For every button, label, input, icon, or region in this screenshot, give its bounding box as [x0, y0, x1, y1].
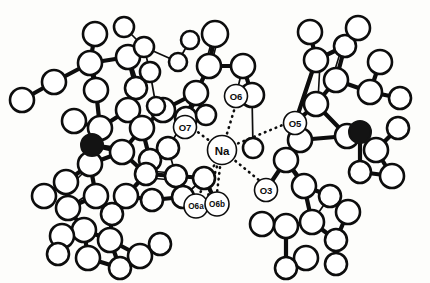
- atom-label-text: O3: [260, 185, 273, 196]
- atom-circle: [54, 170, 78, 194]
- atom-circle: [184, 81, 208, 105]
- atom-circle: [364, 138, 388, 162]
- atom-circle: [304, 92, 328, 116]
- atom-circle: [387, 117, 409, 139]
- atom-label-o6b: O6b: [205, 192, 229, 216]
- atom-circle: [165, 165, 187, 187]
- atom-circle: [275, 257, 297, 279]
- atom-circle: [110, 140, 134, 164]
- atom-circle: [197, 54, 221, 78]
- atom-circle: [298, 20, 322, 44]
- atom-circle: [196, 105, 216, 125]
- atom-label-text: O6b: [209, 200, 225, 209]
- atom-circle: [358, 80, 382, 104]
- atom-circle: [125, 77, 147, 99]
- atom-circle: [274, 214, 298, 238]
- atom-circle: [250, 212, 274, 236]
- atom-label-o6: O6: [225, 85, 248, 108]
- atom-circle: [181, 31, 199, 49]
- atom-circle: [10, 88, 34, 112]
- atom-circle: [130, 116, 154, 140]
- atom-circle: [325, 253, 347, 275]
- atom-label-text: Na: [215, 145, 230, 157]
- atom-circle: [42, 70, 66, 94]
- atom-circle: [324, 68, 348, 92]
- atom-circle: [76, 246, 100, 270]
- atom-circle: [147, 97, 165, 115]
- atom-circle: [389, 87, 411, 109]
- atom-circle: [231, 54, 255, 78]
- crystal-structure-figure: NaO6O7O5O3O6aO6b: [0, 0, 430, 283]
- heteroatom-circle: [81, 134, 103, 156]
- atom-circle: [346, 16, 370, 40]
- atom-circle: [62, 109, 86, 133]
- atom-circle: [47, 243, 69, 265]
- atom-circle: [304, 48, 328, 72]
- atom-circle: [169, 53, 187, 71]
- atom-circle: [56, 196, 80, 220]
- atom-circle: [141, 189, 163, 211]
- atom-circle: [84, 78, 108, 102]
- atom-circle: [101, 203, 123, 225]
- atom-circle: [202, 21, 228, 47]
- atom-circle: [32, 184, 56, 208]
- atom-circle: [72, 218, 96, 242]
- atom-label-o5: O5: [284, 112, 307, 135]
- structure-svg: NaO6O7O5O3O6aO6b: [0, 0, 430, 283]
- heteroatom-circle: [349, 121, 371, 143]
- atom-label-o3: O3: [255, 179, 278, 202]
- atom-circle: [109, 257, 131, 279]
- atom-circle: [98, 228, 122, 252]
- atom-circle: [83, 22, 107, 46]
- atom-circle: [134, 37, 154, 57]
- atom-circle: [300, 210, 324, 234]
- atom-circle: [149, 233, 171, 255]
- atom-circle: [274, 148, 298, 172]
- atom-circle: [380, 164, 404, 188]
- atom-circle: [325, 229, 347, 251]
- atom-circle: [135, 163, 157, 185]
- atom-circle: [78, 51, 102, 75]
- atom-label-o7: O7: [174, 116, 197, 139]
- atom-circle: [368, 50, 392, 74]
- atom-circle: [243, 138, 263, 158]
- atom-label-text: O6a: [188, 202, 204, 211]
- atom-label-text: O7: [179, 122, 192, 133]
- atom-circle: [193, 167, 215, 189]
- atom-circle: [349, 161, 371, 183]
- atom-circle: [292, 174, 316, 198]
- atom-label-na: Na: [208, 136, 237, 165]
- atom-circle: [336, 200, 360, 224]
- atom-label-text: O6: [230, 91, 243, 102]
- atom-label-text: O5: [289, 118, 302, 129]
- atom-circle: [114, 17, 134, 37]
